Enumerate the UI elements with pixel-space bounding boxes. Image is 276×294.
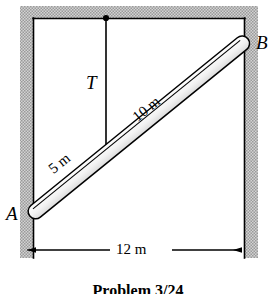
label-point-b: B <box>256 33 268 52</box>
figure-container: A B T 5 m 10 m 12 m Problem 3/24 <box>0 0 276 294</box>
label-span-12m: 12 m <box>116 242 146 257</box>
figure-caption: Problem 3/24 <box>0 283 276 294</box>
cable-ceiling-anchor-dot <box>103 15 109 21</box>
wall-outline <box>33 18 245 258</box>
rod-ab <box>25 33 253 222</box>
label-tension-t: T <box>86 73 97 92</box>
label-point-a: A <box>6 204 18 223</box>
cable-T <box>103 15 110 159</box>
